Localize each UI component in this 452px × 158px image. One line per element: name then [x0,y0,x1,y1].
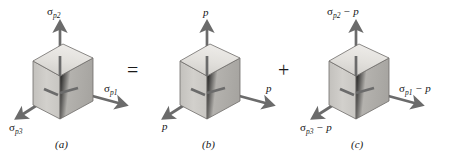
panel-c-graphics [316,26,418,119]
panel-b-graphics [167,26,269,119]
stress-label-c-left: σp3 − p [300,122,332,133]
stress-label-a-up: σp2 [47,6,60,17]
panel-caption-c: (c) [351,138,363,150]
stress-label-a-left: σp3 [9,122,22,133]
stress-label-b-up: p [203,7,209,18]
cube-a [33,44,93,119]
stress-label-c-right: σp1 − p [399,83,431,94]
panel-a-graphics [20,26,122,119]
equals-operator: = [127,60,138,80]
stress-label-c-up: σp2 − p [327,6,359,17]
panel-caption-a: (a) [55,138,68,150]
panel-caption-b: (b) [202,138,215,150]
cube-b [180,44,240,119]
stress-decomposition-figure: σp2 σp1 σp3 (a) = p p p (b) + σp2 − p σp… [0,0,452,158]
plus-operator: + [278,60,289,80]
cube-c [329,44,389,119]
figure-canvas [0,0,452,158]
stress-label-b-right: p [266,83,272,94]
stress-label-b-left: p [162,121,168,132]
stress-label-a-right: σp1 [104,83,117,94]
